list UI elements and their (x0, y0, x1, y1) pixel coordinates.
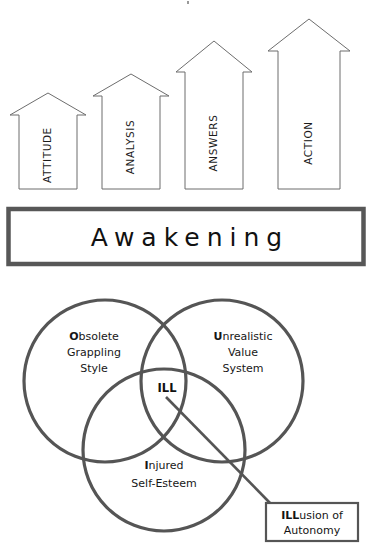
illusion-callout: ILLusion of Autonomy (266, 503, 358, 541)
venn-label-obsolete: Obsolete Grappling Style (67, 330, 121, 375)
venn-label-unrealistic: Unrealistic Value System (214, 330, 273, 375)
awakening-bar: Awakening (9, 209, 364, 264)
awakening-diagram: ATTITUDE ANALYSIS ANSWERS ACTION Awakeni… (0, 0, 375, 551)
svg-text:ILLusion of: ILLusion of (281, 509, 344, 522)
venn-intersection-label: ILL (158, 381, 178, 395)
arrow-analysis: ANALYSIS (93, 74, 169, 189)
venn-unrealistic-rest: nrealistic (222, 330, 272, 343)
scan-artifact-speck (187, 1, 189, 4)
svg-text:Injured: Injured (144, 459, 183, 472)
illusion-callout-rest: usion of (299, 509, 344, 522)
arrow-action-label: ACTION (302, 121, 314, 165)
venn-obsolete-rest: bsolete (79, 330, 120, 343)
venn-unrealistic-line2: Value (228, 346, 258, 359)
venn-label-injured: Injured Self-Esteem (131, 459, 196, 490)
svg-text:Obsolete: Obsolete (69, 330, 119, 343)
arrow-analysis-label: ANALYSIS (124, 120, 136, 174)
venn-obsolete-lead: O (69, 330, 78, 343)
venn-obsolete-line2: Grappling (67, 346, 121, 359)
arrow-action: ACTION (268, 19, 350, 189)
arrow-answers: ANSWERS (176, 41, 252, 189)
diagram-canvas: ATTITUDE ANALYSIS ANSWERS ACTION Awakeni… (0, 0, 375, 551)
awakening-bar-label: Awakening (91, 223, 289, 252)
arrow-attitude: ATTITUDE (10, 93, 86, 189)
venn-injured-rest: njured (149, 459, 184, 472)
venn-injured-line2: Self-Esteem (131, 477, 196, 490)
arrow-attitude-label: ATTITUDE (41, 127, 53, 183)
venn-unrealistic-lead: U (214, 330, 223, 343)
illusion-callout-line2: Autonomy (284, 524, 341, 537)
svg-text:Unrealistic: Unrealistic (214, 330, 273, 343)
venn-unrealistic-line3: System (222, 362, 263, 375)
arrow-answers-label: ANSWERS (207, 115, 219, 172)
venn-obsolete-line3: Style (80, 362, 108, 375)
illusion-callout-lead: ILL (281, 509, 299, 522)
